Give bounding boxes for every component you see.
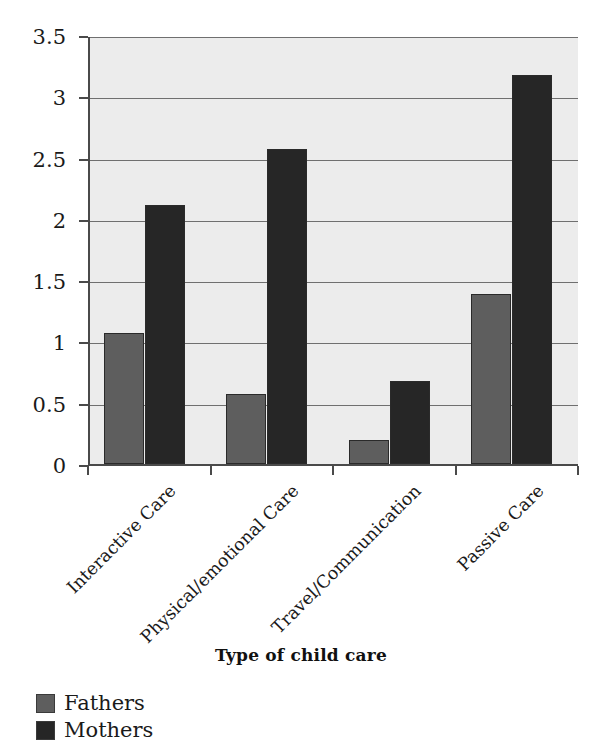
y-axis-tick-label: 1 bbox=[53, 333, 66, 354]
legend-label: Mothers bbox=[64, 720, 153, 741]
bar-mothers-4 bbox=[512, 75, 552, 464]
legend-swatch-fathers bbox=[36, 694, 55, 713]
x-axis-tick-mark bbox=[577, 466, 579, 475]
bar-mothers-3 bbox=[390, 381, 430, 464]
y-axis-tick-label: 3 bbox=[53, 88, 66, 109]
x-axis-category-labels: Interactive CarePhysical/emotional CareT… bbox=[0, 466, 602, 656]
y-axis-tick-label: 2.5 bbox=[33, 149, 66, 170]
plot-area bbox=[88, 37, 578, 466]
y-axis-tick-mark bbox=[79, 36, 88, 38]
legend: FathersMothers bbox=[36, 690, 256, 744]
y-axis-tick-label: 2 bbox=[53, 210, 66, 231]
y-axis-tick-label: 3.5 bbox=[33, 27, 66, 48]
x-axis-title: Type of child care bbox=[0, 645, 602, 665]
legend-swatch-mothers bbox=[36, 721, 55, 740]
bar-fathers-2 bbox=[226, 394, 266, 464]
bar-fathers-4 bbox=[471, 294, 511, 464]
bar-mothers-1 bbox=[145, 205, 185, 464]
y-axis-tick-mark bbox=[79, 281, 88, 283]
gridline bbox=[90, 37, 578, 38]
y-axis-tick-mark bbox=[79, 97, 88, 99]
y-axis-tick-mark bbox=[79, 342, 88, 344]
legend-label: Fathers bbox=[64, 693, 145, 714]
bar-fathers-1 bbox=[104, 333, 144, 464]
legend-item: Fathers bbox=[36, 690, 256, 717]
x-axis-tick-mark bbox=[210, 466, 212, 475]
legend-item: Mothers bbox=[36, 717, 256, 744]
gridline bbox=[90, 98, 578, 99]
y-axis-tick-mark bbox=[79, 220, 88, 222]
gridline bbox=[90, 160, 578, 161]
bar-fathers-3 bbox=[349, 440, 389, 465]
x-axis-tick-mark bbox=[332, 466, 334, 475]
x-axis-tick-mark bbox=[87, 466, 89, 475]
bar-mothers-2 bbox=[267, 149, 307, 464]
y-axis-tick-mark bbox=[79, 159, 88, 161]
x-axis-tick-mark bbox=[455, 466, 457, 475]
y-axis-tick-mark bbox=[79, 404, 88, 406]
y-axis-tick-label: 0.5 bbox=[33, 394, 66, 415]
bar-chart-figure: 00.511.522.533.5 Interactive CarePhysica… bbox=[0, 0, 602, 753]
y-axis-tick-label: 1.5 bbox=[33, 272, 66, 293]
